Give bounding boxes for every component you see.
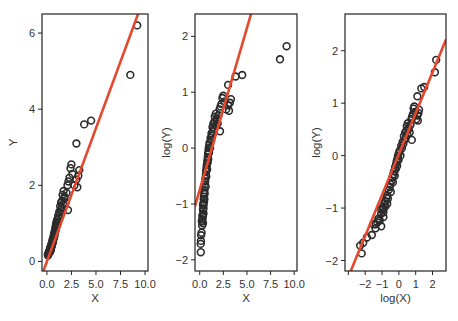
data-point: [197, 249, 204, 256]
panel-y-vs-x: 0.02.55.07.510.00246XY: [7, 0, 156, 304]
plot-frame: [345, 14, 446, 271]
data-point: [73, 140, 80, 147]
x-tick-label: 5.0: [239, 278, 254, 290]
x-tick-label: 7.5: [263, 278, 278, 290]
y-axis-label: Y: [7, 138, 19, 146]
x-tick-label: 2.5: [64, 278, 79, 290]
x-tick-label: 2.5: [216, 278, 231, 290]
panel-logy-vs-x: 0.02.55.07.510.0−2−1012Xlog(Y): [160, 0, 305, 304]
x-axis-label: log(X): [380, 292, 411, 304]
fit-line: [195, 0, 297, 206]
panel-logy-vs-logx: −2−1012−2−1012log(X)log(Y): [310, 14, 446, 304]
x-tick-label: −2: [359, 278, 372, 290]
y-tick-label: 4: [29, 103, 35, 115]
data-point: [239, 72, 246, 79]
data-point: [127, 72, 134, 79]
y-tick-label: −2: [325, 255, 338, 267]
x-tick-label: −1: [376, 278, 389, 290]
data-point: [277, 56, 284, 63]
y-tick-label: −1: [325, 202, 338, 214]
y-tick-label: −1: [175, 198, 188, 210]
y-axis-label: log(Y): [160, 127, 172, 158]
y-tick-label: 2: [182, 30, 188, 42]
x-tick-label: 10.0: [283, 278, 304, 290]
fit-line: [42, 0, 148, 275]
data-point: [88, 117, 95, 124]
y-tick-label: 2: [332, 45, 338, 57]
y-tick-label: 1: [182, 86, 188, 98]
x-tick-label: 0.0: [39, 278, 54, 290]
y-axis-label: log(Y): [310, 127, 322, 158]
y-tick-label: 0: [332, 150, 338, 162]
x-axis-label: X: [91, 292, 99, 304]
x-tick-label: 10.0: [134, 278, 155, 290]
data-point: [81, 121, 88, 128]
y-tick-label: 6: [29, 27, 35, 39]
y-tick-label: −2: [175, 254, 188, 266]
y-tick-label: 0: [182, 142, 188, 154]
x-tick-label: 7.5: [113, 278, 128, 290]
data-point: [283, 43, 290, 50]
y-tick-label: 2: [29, 179, 35, 191]
x-tick-label: 0.0: [192, 278, 207, 290]
data-point: [414, 93, 421, 100]
x-tick-label: 0: [396, 278, 402, 290]
y-tick-label: 1: [332, 97, 338, 109]
x-axis-label: X: [242, 292, 250, 304]
y-tick-label: 0: [29, 255, 35, 267]
chart-figure: 0.02.55.07.510.00246XY 0.02.55.07.510.0−…: [0, 0, 458, 321]
x-tick-label: 1: [413, 278, 419, 290]
x-tick-label: 5.0: [88, 278, 103, 290]
fit-line: [345, 39, 446, 284]
x-tick-label: 2: [429, 278, 435, 290]
